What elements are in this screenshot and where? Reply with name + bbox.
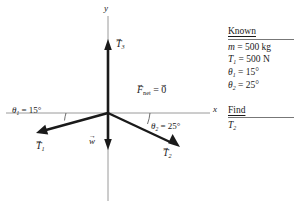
theta2-label: θ2 = 25° bbox=[151, 122, 180, 132]
known-heading: Known bbox=[228, 26, 294, 36]
known-row: θ1 = 15° bbox=[228, 67, 294, 78]
vector-arrow-icon: → bbox=[88, 133, 95, 140]
vector-t3-label: →T3 bbox=[116, 39, 125, 50]
find-heading: Find bbox=[228, 105, 294, 115]
vector-t2-label: →T2 bbox=[163, 148, 172, 159]
vector-w bbox=[104, 113, 112, 150]
find-divider bbox=[228, 117, 294, 118]
theta1-label: θ1 = 15° bbox=[12, 106, 41, 116]
vector-t1-label: →T1 bbox=[36, 141, 45, 152]
known-divider bbox=[228, 39, 294, 40]
known-row: θ2 = 25° bbox=[228, 80, 294, 91]
find-row: T2 bbox=[228, 120, 294, 131]
vector-arrow-icon: → bbox=[136, 81, 144, 89]
x-axis-label: x bbox=[213, 105, 217, 114]
vector-arrow-icon: → bbox=[35, 137, 43, 145]
vector-w-label: →w bbox=[89, 137, 95, 146]
vector-t1 bbox=[36, 113, 108, 135]
vector-arrow-icon: → bbox=[162, 144, 170, 152]
theta2-arc bbox=[148, 113, 151, 124]
vector-arrow-icon: → bbox=[160, 81, 168, 89]
vector-t3 bbox=[104, 39, 112, 113]
problem-info-panel: Known m = 500 kg T1 = 500 N θ1 = 15° θ2 … bbox=[228, 26, 294, 134]
theta1-arc bbox=[65, 113, 67, 121]
known-row: T1 = 500 N bbox=[228, 54, 294, 65]
y-axis-label: y bbox=[104, 4, 108, 13]
fnet-equation-label: →Fnet = →0 bbox=[137, 85, 166, 96]
known-row: m = 500 kg bbox=[228, 42, 294, 52]
vector-arrow-icon: → bbox=[115, 35, 123, 43]
